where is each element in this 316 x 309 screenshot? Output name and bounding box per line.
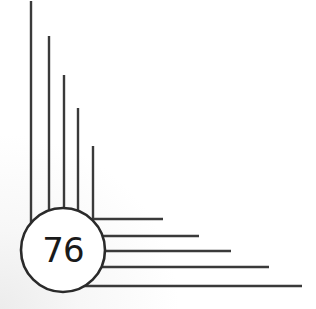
badge-graphic: 76 — [0, 0, 316, 309]
badge-number: 76 — [21, 208, 105, 292]
